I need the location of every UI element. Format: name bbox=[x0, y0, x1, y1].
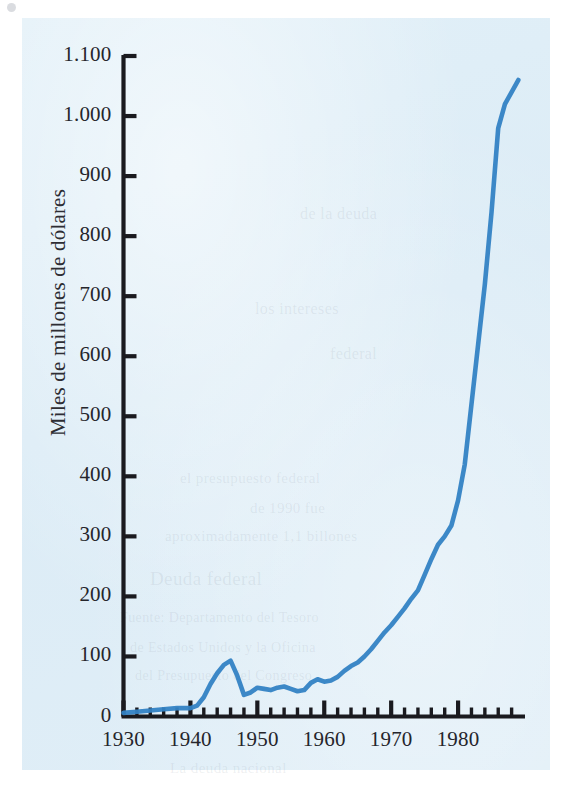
chart-page: de la deudalos interesesfederalel presup… bbox=[0, 0, 571, 790]
y-tick-label: 100 bbox=[42, 642, 112, 667]
y-tick-label: 1.000 bbox=[42, 102, 112, 127]
y-tick-label: 0 bbox=[42, 703, 112, 728]
y-tick-label: 200 bbox=[42, 582, 112, 607]
axes bbox=[122, 55, 526, 717]
y-tick-label: 300 bbox=[42, 522, 112, 547]
y-tick-label: 900 bbox=[42, 162, 112, 187]
y-tick-label: 800 bbox=[42, 222, 112, 247]
series-line-0 bbox=[124, 80, 519, 713]
y-tick-label: 1.100 bbox=[42, 42, 112, 67]
data-series bbox=[124, 80, 519, 713]
y-tick-label: 400 bbox=[42, 462, 112, 487]
y-tick-label: 700 bbox=[42, 282, 112, 307]
y-tick-label: 600 bbox=[42, 342, 112, 367]
chart-figure: Miles de millones de dólares 01002003004… bbox=[0, 0, 571, 790]
y-tick-label: 500 bbox=[42, 402, 112, 427]
x-tick-label: 1980 bbox=[418, 727, 498, 752]
